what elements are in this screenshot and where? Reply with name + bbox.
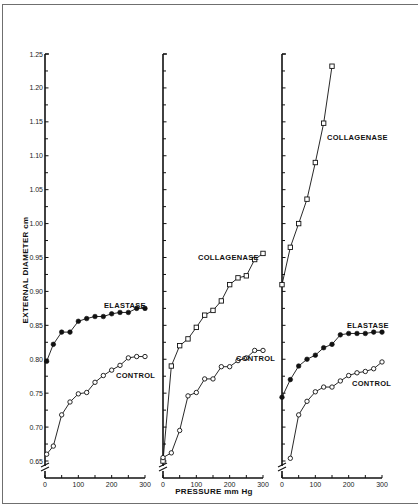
series-line (282, 66, 332, 284)
filled-circle-marker (380, 330, 385, 335)
panel3-collagenase-label: COLLAGENASE (327, 133, 388, 142)
x-tick-label: 100 (72, 481, 84, 488)
panel3-elastase-label: ELASTASE (347, 321, 389, 330)
x-tick-label: 200 (343, 481, 355, 488)
open-circle-marker (211, 377, 215, 381)
filled-circle-marker (346, 331, 351, 336)
x-axis-title: PRESSURE mm Hg (175, 487, 253, 496)
filled-circle-marker (280, 395, 285, 400)
series-collagenase-panel-3 (280, 64, 334, 287)
panel-2-axes: 0100200300 (159, 54, 269, 488)
filled-circle-marker (305, 357, 310, 362)
open-circle-marker (219, 365, 223, 369)
open-square-marker (211, 308, 215, 312)
panel2-collagenase-label: COLLAGENASE (198, 253, 259, 262)
open-circle-marker (177, 428, 181, 432)
filled-circle-marker (313, 353, 318, 358)
open-square-marker (177, 343, 181, 347)
filled-circle-marker (51, 342, 56, 347)
y-tick-label: 1.15 (29, 118, 43, 125)
y-tick-label: 1.00 (29, 220, 43, 227)
open-square-marker (202, 313, 206, 317)
filled-circle-marker (126, 310, 131, 315)
panel1-control-label: CONTROL (116, 371, 155, 380)
open-square-marker (296, 221, 300, 225)
filled-circle-marker (363, 331, 368, 336)
open-circle-marker (288, 456, 292, 460)
open-circle-marker (44, 452, 48, 456)
open-square-marker (280, 282, 284, 286)
axis-break-mark (41, 467, 49, 471)
open-circle-marker (118, 363, 122, 367)
y-tick-label: 0.90 (29, 288, 43, 295)
open-square-marker (330, 64, 334, 68)
y-tick-label: 1.05 (29, 186, 43, 193)
open-circle-marker (338, 379, 342, 383)
panel1-elastase-label: ELASTASE (104, 301, 146, 310)
open-square-marker (227, 282, 231, 286)
open-square-marker (219, 299, 223, 303)
open-circle-marker (59, 413, 63, 417)
filled-circle-marker (59, 330, 64, 335)
open-circle-marker (186, 394, 190, 398)
x-tick-label: 300 (376, 481, 388, 488)
filled-circle-marker (109, 312, 114, 317)
open-circle-marker (134, 354, 138, 358)
y-tick-label: 1.20 (29, 84, 43, 91)
filled-circle-marker (68, 330, 73, 335)
y-tick-label: 0.75 (29, 390, 43, 397)
open-square-marker (244, 274, 248, 278)
y-tick-label: 0.70 (29, 424, 43, 431)
y-tick-label: 1.10 (29, 152, 43, 159)
filled-circle-marker (355, 331, 360, 336)
y-tick-label: 0.95 (29, 254, 43, 261)
open-circle-marker (355, 371, 359, 375)
open-circle-marker (101, 373, 105, 377)
open-circle-marker (109, 368, 113, 372)
open-circle-marker (68, 400, 72, 404)
series-control-panel-3 (288, 360, 384, 461)
plot-series-group (44, 64, 384, 463)
open-circle-marker (169, 451, 173, 455)
series-control-panel-2 (161, 348, 265, 460)
filled-circle-marker (321, 345, 326, 350)
open-circle-marker (227, 365, 231, 369)
open-circle-marker (305, 399, 309, 403)
open-circle-marker (296, 413, 300, 417)
filled-circle-marker (93, 314, 98, 319)
open-square-marker (313, 160, 317, 164)
open-circle-marker (363, 369, 367, 373)
filled-circle-marker (84, 316, 89, 321)
open-circle-marker (93, 380, 97, 384)
open-circle-marker (313, 390, 317, 394)
open-square-marker (305, 197, 309, 201)
x-tick-label: 0 (280, 481, 284, 488)
filled-circle-marker (44, 359, 49, 364)
open-square-marker (194, 325, 198, 329)
filled-circle-marker (296, 364, 301, 369)
open-circle-marker (346, 373, 350, 377)
y-tick-label: 0.65 (29, 458, 43, 465)
open-circle-marker (202, 377, 206, 381)
axis-break-mark (278, 467, 286, 471)
open-square-marker (261, 251, 265, 255)
series-line (163, 350, 263, 457)
open-circle-marker (261, 348, 265, 352)
y-axis-title: EXTERNAL DIAMETER cm (21, 217, 30, 324)
x-tick-label: 300 (257, 481, 269, 488)
x-tick-label: 200 (106, 481, 118, 488)
y-tick-label: 1.25 (29, 51, 43, 58)
y-tick-label: 0.85 (29, 322, 43, 329)
series-elastase-panel-1 (44, 306, 147, 364)
panel-1-axes: 01002003000.650.700.750.800.850.900.951.… (29, 51, 151, 489)
open-circle-marker (321, 385, 325, 389)
filled-circle-marker (288, 377, 293, 382)
open-square-marker (186, 337, 190, 341)
open-circle-marker (51, 444, 55, 448)
x-tick-label: 0 (161, 481, 165, 488)
series-control-panel-1 (44, 354, 147, 456)
x-tick-label: 0 (43, 481, 47, 488)
x-tick-label: 100 (309, 481, 321, 488)
panel2-control-label: CONTROL (236, 354, 275, 363)
